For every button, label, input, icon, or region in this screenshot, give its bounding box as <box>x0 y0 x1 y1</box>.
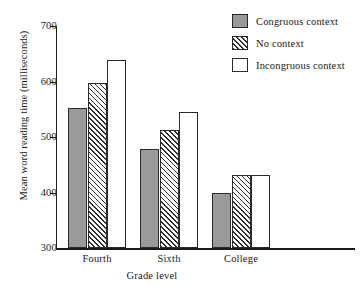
x-category-label: Fourth <box>57 253 137 264</box>
legend-swatch-icon <box>232 58 248 72</box>
bar <box>212 193 231 249</box>
x-category-label: College <box>201 253 281 264</box>
y-tick-label: 500 <box>13 132 57 142</box>
bar <box>232 175 251 248</box>
legend-label: Congruous context <box>256 16 338 27</box>
y-tick-label: 400 <box>13 188 57 198</box>
x-axis-line <box>56 248 355 250</box>
legend-item: No context <box>232 32 345 54</box>
bar-chart: Mean word reading time (milliseconds) 30… <box>0 0 362 292</box>
legend-item: Congruous context <box>232 10 345 32</box>
bar <box>160 130 179 248</box>
y-tick-label: 700 <box>13 21 57 31</box>
legend: Congruous contextNo contextIncongruous c… <box>232 10 345 76</box>
legend-label: Incongruous context <box>256 60 345 71</box>
y-tick-label: 600 <box>13 77 57 87</box>
legend-swatch-icon <box>232 36 248 50</box>
y-axis-title: Mean word reading time (milliseconds) <box>18 21 29 211</box>
bar <box>88 83 107 248</box>
y-tick-label: 300 <box>13 243 57 253</box>
bar <box>107 60 126 248</box>
bar <box>68 108 87 248</box>
bar <box>140 149 159 248</box>
bar <box>251 175 270 248</box>
legend-item: Incongruous context <box>232 54 345 76</box>
legend-label: No context <box>256 38 304 49</box>
legend-swatch-icon <box>232 14 248 28</box>
bar <box>179 112 198 248</box>
x-axis-title: Grade level <box>57 270 247 281</box>
x-category-label: Sixth <box>129 253 209 264</box>
